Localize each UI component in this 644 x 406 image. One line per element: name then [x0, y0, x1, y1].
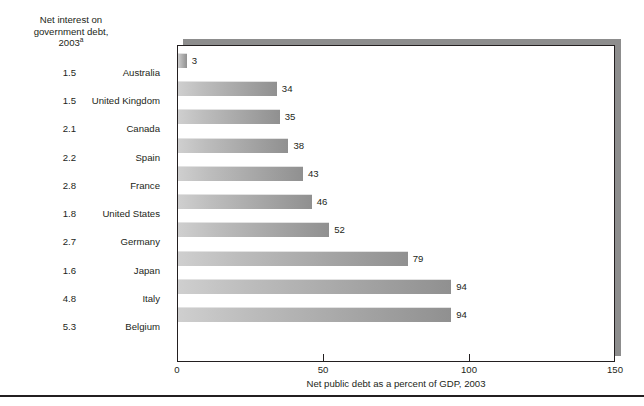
cropped-title-remnant: [186, 0, 486, 4]
country-label: United Kingdom: [80, 95, 172, 106]
table-row: 2.1Canada: [0, 115, 172, 143]
bar-row: 79: [178, 244, 614, 272]
bar-row: 94: [178, 272, 614, 300]
net-interest-value: 2.2: [0, 152, 80, 163]
net-interest-value: 4.8: [0, 293, 80, 304]
net-interest-value: 5.3: [0, 321, 80, 332]
x-tick-label: 50: [318, 364, 329, 375]
bar-value-label: 34: [282, 83, 293, 94]
bar-value-label: 3: [192, 55, 197, 66]
bottom-divider-rule: [0, 395, 644, 397]
table-row: 1.5United Kingdom: [0, 86, 172, 114]
bar-value-label: 94: [456, 309, 467, 320]
bar-value-label: 35: [285, 111, 296, 122]
left-column-header-line3: 2003: [58, 37, 79, 48]
net-interest-value: 1.5: [0, 95, 80, 106]
table-row: 4.8Italy: [0, 284, 172, 312]
bar-row: 38: [178, 131, 614, 159]
bar-value-label: 43: [308, 168, 319, 179]
bars-layer: 3343538434652799494: [178, 46, 614, 361]
left-column-header-line2: government debt,: [34, 26, 109, 37]
country-label: Australia: [80, 67, 172, 78]
x-tick-mark: [323, 354, 324, 362]
country-label: France: [80, 180, 172, 191]
bar-value-label: 94: [456, 281, 467, 292]
bar-row: 34: [178, 74, 614, 102]
net-interest-value: 1.6: [0, 265, 80, 276]
x-tick-mark: [469, 354, 470, 362]
bar-value-label: 38: [293, 140, 304, 151]
country-label: Germany: [80, 236, 172, 247]
x-tick-label: 0: [174, 364, 179, 375]
bar-row: 46: [178, 187, 614, 215]
bar: [178, 251, 408, 266]
bar-row: 35: [178, 103, 614, 131]
net-interest-value: 2.1: [0, 123, 80, 134]
table-row: 2.7Germany: [0, 228, 172, 256]
country-label: United States: [80, 208, 172, 219]
table-row: 1.5Australia: [0, 58, 172, 86]
country-label: Belgium: [80, 321, 172, 332]
left-labels-column: 1.5Australia1.5United Kingdom2.1Canada2.…: [0, 58, 172, 341]
table-row: 1.6Japan: [0, 256, 172, 284]
net-interest-value: 2.8: [0, 180, 80, 191]
net-interest-value: 1.8: [0, 208, 80, 219]
bar-value-label: 46: [317, 196, 328, 207]
country-label: Spain: [80, 152, 172, 163]
bar: [178, 166, 303, 181]
bar: [178, 279, 451, 294]
bar-value-label: 79: [413, 253, 424, 264]
bar: [178, 194, 312, 209]
bar-value-label: 52: [334, 224, 345, 235]
bar: [178, 222, 329, 237]
net-interest-value: 2.7: [0, 236, 80, 247]
x-axis-title: Net public debt as a percent of GDP, 200…: [177, 378, 615, 389]
chart-figure: Net interest on government debt, 2003a 1…: [0, 0, 644, 406]
bar-row: 94: [178, 301, 614, 329]
x-tick-label: 150: [607, 364, 623, 375]
table-row: 2.2Spain: [0, 143, 172, 171]
bar: [178, 53, 187, 68]
bar: [178, 81, 277, 96]
country-label: Canada: [80, 123, 172, 134]
net-interest-value: 1.5: [0, 67, 80, 78]
table-row: 5.3Belgium: [0, 313, 172, 341]
table-row: 2.8France: [0, 171, 172, 199]
footnote-marker: a: [80, 36, 84, 43]
country-label: Japan: [80, 265, 172, 276]
table-row: 1.8United States: [0, 199, 172, 227]
bar: [178, 138, 288, 153]
left-column-header-line1: Net interest on: [40, 14, 102, 25]
bar-row: 52: [178, 216, 614, 244]
country-label: Italy: [80, 293, 172, 304]
left-column-header: Net interest on government debt, 2003a: [6, 14, 136, 49]
bar-row: 43: [178, 159, 614, 187]
bar-row: 3: [178, 46, 614, 74]
bar: [178, 307, 451, 322]
x-tick-label: 100: [461, 364, 477, 375]
bar: [178, 109, 280, 124]
